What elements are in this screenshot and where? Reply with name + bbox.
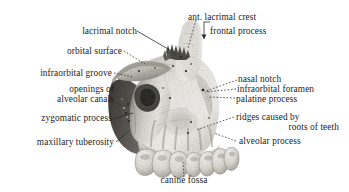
- label-alveolar-process: alveolar process: [239, 136, 301, 146]
- label-orbital-surface: orbital surface: [0, 46, 122, 56]
- label-maxillary-tuberosity: maxillary tuberosity: [0, 137, 114, 147]
- label-openings-of-line1: openings of: [69, 84, 114, 94]
- label-canine-fossa: canine fossa: [148, 175, 220, 185]
- label-ant-lacrimal-crest: ant. lacrimal crest: [188, 12, 256, 22]
- label-roots-of-teeth-line2: roots of teeth: [236, 122, 339, 132]
- label-infraorbital-foramen: infraorbital foramen: [237, 84, 314, 94]
- label-lacrimal-notch: lacrimal notch: [0, 26, 137, 36]
- label-openings-of-alveolar-canals: openings of alveolar canals: [0, 84, 114, 104]
- label-zygomatic-process: zygomatic process: [0, 113, 112, 123]
- label-palatine-process: palatine process: [236, 94, 297, 104]
- anatomical-figure-page: lacrimal notch ant. lacrimal crest front…: [0, 0, 349, 192]
- label-infraorbital-groove: infraorbital groove: [0, 68, 112, 78]
- label-ridges-caused-by-roots-of-teeth: ridges caused by roots of teeth: [236, 112, 346, 132]
- label-nasal-notch: nasal notch: [238, 74, 281, 84]
- label-alveolar-canals-line2: alveolar canals: [0, 94, 114, 104]
- label-frontal-process: frontal process: [210, 26, 267, 36]
- label-ridges-caused-by-line1: ridges caused by: [236, 112, 300, 122]
